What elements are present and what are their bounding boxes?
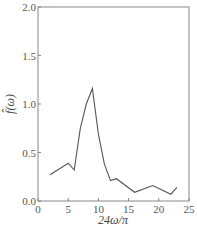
y-tick-label: 1.0 — [22, 98, 36, 110]
x-tick-label: 0 — [35, 203, 41, 215]
plot-frame — [38, 7, 189, 201]
x-tick-label: 20 — [153, 203, 165, 215]
y-axis-label: f̂(ω) — [2, 94, 17, 114]
y-tick-label: 0.5 — [22, 147, 36, 159]
x-axis-label: 24ω/π — [98, 213, 129, 227]
x-tick-label: 5 — [65, 203, 71, 215]
y-tick-label: 2.0 — [22, 1, 36, 13]
data-line — [50, 89, 177, 195]
y-tick-label: 1.5 — [22, 50, 36, 62]
line-chart: 0.00.51.01.52.0 0510152025 24ω/π f̂(ω) — [0, 0, 197, 229]
x-tick-label: 25 — [184, 203, 196, 215]
